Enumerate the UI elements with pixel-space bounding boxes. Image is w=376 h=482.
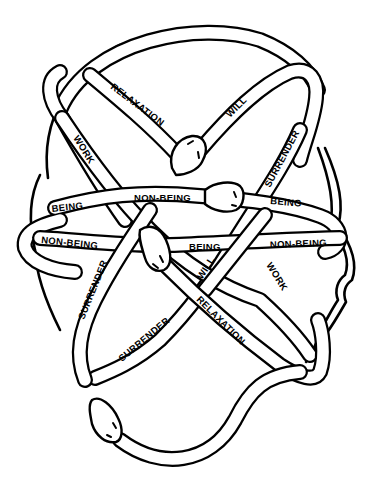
snake-head-center-right xyxy=(205,183,243,212)
label-non-being-right: NON-BEING xyxy=(270,237,327,250)
snake-head-center-left xyxy=(139,227,170,271)
label-work-right: WORK xyxy=(264,260,290,292)
snake-head-bottom-left xyxy=(90,399,122,443)
diagram-canvas: RELAXATION WILL WORK SURRENDER BEING NON… xyxy=(0,0,376,482)
band-relaxation-top xyxy=(90,75,178,155)
label-being-center: BEING xyxy=(189,241,221,252)
band-jaw-tail xyxy=(120,372,300,459)
label-relaxation-bottom: RELAXATION xyxy=(195,294,248,347)
label-non-being-center: NON-BEING xyxy=(134,192,191,203)
label-being-left: BEING xyxy=(51,200,84,214)
band-relaxation-bottom xyxy=(165,265,323,378)
